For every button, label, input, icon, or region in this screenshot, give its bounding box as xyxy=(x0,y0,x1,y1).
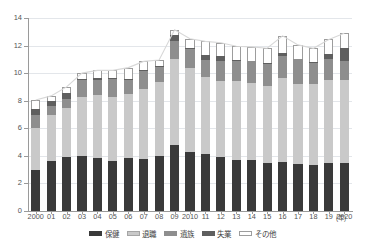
y-tick-label: 2 xyxy=(2,179,22,187)
plot-area xyxy=(28,18,352,211)
legend-label: 保健 xyxy=(105,228,119,239)
legend-item-保健[interactable]: 保健 xyxy=(89,228,119,239)
legend-label: 失業 xyxy=(217,228,231,239)
y-tick-label: 14 xyxy=(2,14,22,22)
legend-label: その他 xyxy=(255,228,276,239)
legend-item-その他[interactable]: その他 xyxy=(239,228,276,239)
y-tick-label: 10 xyxy=(2,69,22,77)
legend-swatch-icon xyxy=(127,231,140,236)
stacked-bar-chart: 02468101214 2000010203040506070809201011… xyxy=(0,0,365,251)
legend-swatch-icon xyxy=(239,231,252,236)
legend-swatch-icon xyxy=(89,231,102,236)
y-tick-label: 12 xyxy=(2,42,22,50)
y-tick-label: 4 xyxy=(2,152,22,160)
legend-swatch-icon xyxy=(202,231,215,236)
legend-swatch-icon xyxy=(164,231,177,236)
legend-label: 遺族 xyxy=(180,228,194,239)
legend-item-失業[interactable]: 失業 xyxy=(202,228,232,239)
legend-item-遺族[interactable]: 遺族 xyxy=(164,228,194,239)
y-tick-label: 8 xyxy=(2,97,22,105)
legend-item-退職[interactable]: 退職 xyxy=(127,228,157,239)
y-tick-label: 0 xyxy=(2,207,22,215)
chart-legend: 保健退職遺族失業その他 xyxy=(0,228,365,239)
legend-label: 退職 xyxy=(142,228,156,239)
y-tick-label: 6 xyxy=(2,124,22,132)
trend-line xyxy=(28,18,352,211)
x-axis-unit-label: (年) xyxy=(336,213,346,222)
